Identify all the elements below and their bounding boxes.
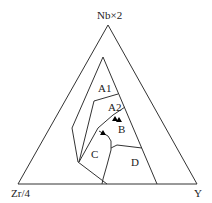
c-b-divider bbox=[99, 131, 111, 179]
vertex-label-bottom-right: Y bbox=[194, 187, 202, 199]
field-label-d: D bbox=[131, 156, 139, 168]
field-boundary-right bbox=[103, 57, 157, 184]
field-label-a2: A2 bbox=[108, 101, 121, 113]
field-label-c: C bbox=[91, 148, 98, 160]
field-label-b: B bbox=[118, 123, 125, 135]
b-d-divider bbox=[111, 145, 142, 148]
ternary-diagram: A1 A2 B C D Nb×2 Zr/4 Y bbox=[0, 0, 212, 203]
vertex-label-top: Nb×2 bbox=[97, 9, 122, 21]
vertex-label-bottom-left: Zr/4 bbox=[11, 187, 30, 199]
field-label-a1: A1 bbox=[98, 82, 111, 94]
